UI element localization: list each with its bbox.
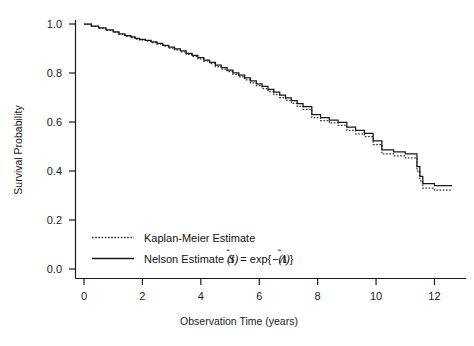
x-axis-tick-labels: 024681012 bbox=[81, 290, 441, 302]
legend-label-kaplan-meier: Kaplan-Meier Estimate bbox=[144, 232, 255, 244]
y-axis-tick-labels: 0.00.20.40.60.81.0 bbox=[47, 18, 62, 275]
x-tick-label-10: 10 bbox=[370, 290, 382, 302]
x-tick-label-4: 4 bbox=[198, 290, 204, 302]
x-tick-label-0: 0 bbox=[81, 290, 87, 302]
nelson-estimate-curve bbox=[84, 24, 452, 186]
y-tick-label-0.2: 0.2 bbox=[47, 214, 62, 226]
x-tick-label-12: 12 bbox=[428, 290, 440, 302]
x-tick-label-6: 6 bbox=[256, 290, 262, 302]
legend-label-nelson: Nelson Estimate bbox=[144, 253, 224, 265]
axis-tick-marks bbox=[69, 24, 434, 285]
x-axis-title: Observation Time (years) bbox=[180, 315, 298, 327]
y-tick-label-0.6: 0.6 bbox=[47, 116, 62, 128]
x-tick-label-8: 8 bbox=[315, 290, 321, 302]
survival-chart-canvas: 0.00.20.40.60.81.0 024681012 Kaplan-Meie… bbox=[0, 0, 474, 346]
y-tick-label-0.0: 0.0 bbox=[47, 263, 62, 275]
legend: Kaplan-Meier Estimate Nelson Estimate Ŝ… bbox=[92, 232, 294, 266]
survival-plot-figure: 0.00.20.40.60.81.0 024681012 Kaplan-Meie… bbox=[0, 0, 474, 346]
x-tick-label-2: 2 bbox=[139, 290, 145, 302]
kaplan-meier-curve bbox=[84, 24, 452, 190]
y-axis-title: Survival Probability bbox=[12, 105, 24, 195]
y-tick-label-1.0: 1.0 bbox=[47, 18, 62, 30]
y-tick-label-0.8: 0.8 bbox=[47, 67, 62, 79]
y-tick-label-0.4: 0.4 bbox=[47, 165, 62, 177]
legend-formula-nelson: Ŝ(t)=exp{−Λ̂(t)} bbox=[226, 249, 294, 266]
